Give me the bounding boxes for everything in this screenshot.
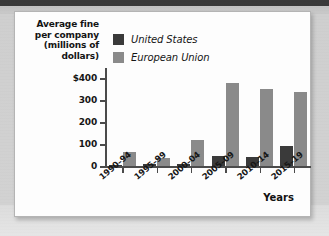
x-tick-mark: [122, 168, 124, 173]
y-axis-title-line-4: dollars): [23, 51, 99, 62]
y-axis-title-line-1: Average fine: [23, 19, 99, 30]
x-tick-mark: [157, 168, 159, 173]
y-tick-label: 100: [79, 139, 97, 149]
legend-swatch-european-union: [113, 52, 124, 63]
y-tick-mark: [100, 100, 105, 102]
legend-swatch-united-states: [113, 34, 124, 45]
y-axis-title-line-2: per company: [23, 30, 99, 41]
y-tick-label: 0: [91, 161, 97, 171]
chart-legend: United States European Union: [113, 32, 210, 68]
x-tick-mark: [294, 168, 296, 173]
y-tick-label: 300: [79, 95, 97, 105]
x-axis-title: Years: [263, 192, 294, 203]
y-tick-label: $400: [73, 73, 97, 83]
legend-label-european-union: European Union: [131, 52, 210, 63]
chart-figure: Average fine per company (millions of do…: [14, 11, 311, 217]
legend-item-united-states: United States: [113, 32, 210, 47]
y-axis-title-line-3: (millions of: [23, 40, 99, 51]
y-axis-title: Average fine per company (millions of do…: [23, 19, 99, 61]
plot-area: 0100200300$400: [105, 74, 311, 168]
legend-label-united-states: United States: [131, 34, 197, 45]
x-tick-mark: [225, 168, 227, 173]
legend-item-european-union: European Union: [113, 50, 210, 65]
y-tick-label: 200: [79, 117, 97, 127]
y-axis-line: [105, 68, 107, 168]
y-tick-mark: [100, 122, 105, 124]
y-tick-mark: [100, 78, 105, 80]
x-tick-mark: [260, 168, 262, 173]
y-tick-mark: [100, 144, 105, 146]
x-tick-mark: [191, 168, 193, 173]
